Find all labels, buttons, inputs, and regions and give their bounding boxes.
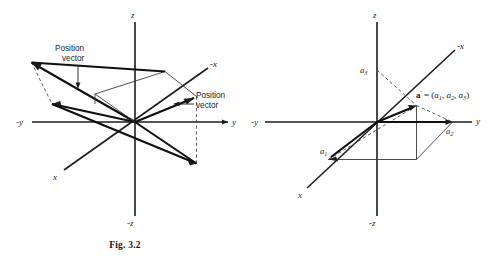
vector-lower-projection-dashed: [135, 97, 197, 164]
label-x-left: x: [52, 172, 57, 182]
label-z-left: z: [130, 10, 135, 20]
annotation-upper-line2: vector: [62, 54, 85, 63]
label-a2: a2: [446, 126, 453, 137]
figure-page: Position vector Position vector z -z y -…: [0, 0, 499, 266]
base-parallelogram: [329, 122, 453, 160]
bold-diagonal-lower: [52, 104, 197, 164]
axis-arrowheads-left: [222, 120, 228, 125]
plane-outline-right: [165, 72, 197, 97]
arrowhead-y-positive: [222, 120, 228, 125]
label-neg-y-left: -y: [16, 117, 23, 127]
label-y-right: y: [475, 116, 480, 126]
position-vector-lower-right: [95, 72, 197, 166]
dashed-tip-to-a2: [417, 106, 453, 123]
position-vector-upper-left: [32, 63, 136, 123]
label-neg-x-left: -x: [210, 59, 217, 69]
vector-component-a1: [331, 122, 377, 157]
axis-x-oblique-right: [307, 50, 455, 188]
label-y-left: y: [231, 117, 236, 127]
annotation-lower-line1: Position: [196, 91, 226, 100]
axis-x-oblique: [64, 68, 208, 170]
label-a3: a3: [360, 65, 367, 76]
label-a1: a1: [320, 146, 327, 157]
figure-3-3-canvas: a3 a2 a1 a' = (a1, a2, a3) z -z y -y x -…: [250, 0, 499, 240]
formula-a-prime: a' = (a1, a2, a3): [416, 89, 469, 101]
caption-figure-3-2: Fig. 3.2: [0, 240, 250, 250]
bold-diagonal-upper: [32, 63, 166, 72]
annotation-position-vector-lower: Position vector: [173, 91, 226, 110]
figure-3-2-canvas: Position vector Position vector z -z y -…: [0, 0, 250, 240]
axes-group-right: [265, 22, 472, 216]
annotation-lower-line2: vector: [196, 101, 219, 110]
figure-3-2: Position vector Position vector z -z y -…: [0, 0, 250, 266]
dashed-a3-to-tip: [377, 70, 417, 106]
annotation-upper-line1: Position: [55, 44, 85, 53]
label-neg-z-right: -z: [369, 218, 376, 228]
vector-a-prime: [377, 107, 414, 122]
label-neg-z-left: -z: [127, 218, 134, 228]
figure-3-3: a3 a2 a1 a' = (a1, a2, a3) z -z y -y x -…: [250, 0, 499, 266]
dashed-a1-to-tip: [329, 106, 417, 160]
label-x-right: x: [297, 190, 302, 200]
label-neg-x-right: -x: [457, 41, 464, 51]
dashed-construction-right: [329, 70, 453, 160]
label-z-right: z: [372, 10, 377, 20]
vector-upper-shaft: [32, 63, 136, 123]
vector-component-a2-head: [446, 119, 453, 125]
label-neg-y-right: -y: [251, 117, 258, 127]
plane-outline-upper: [95, 72, 165, 105]
